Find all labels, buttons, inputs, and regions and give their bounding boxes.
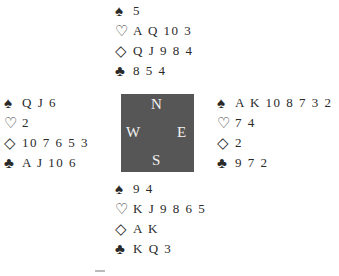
north-clubs-cards: 8 5 4	[133, 61, 167, 81]
east-diamonds-cards: 2	[235, 133, 243, 153]
south-spades-cards: 9 4	[133, 179, 154, 199]
compass-west-label: W	[126, 124, 140, 141]
club-icon: ♣	[4, 153, 22, 173]
spade-icon: ♠	[115, 179, 133, 199]
north-spades: ♠5	[115, 1, 193, 21]
north-diamonds: ◇Q J 9 8 4	[115, 41, 193, 61]
east-hearts-cards: 7 4	[235, 113, 256, 133]
spade-icon: ♠	[4, 93, 22, 113]
south-hearts-cards: K J 9 8 6 5	[133, 199, 206, 219]
south-hand: ♠9 4 ♡K J 9 8 6 5 ◇A K ♣K Q 3	[115, 179, 206, 259]
west-diamonds: ◇10 7 6 5 3	[4, 133, 89, 153]
west-hearts: ♡2	[4, 113, 89, 133]
compass-table: N W E S	[121, 94, 194, 172]
diamond-icon: ◇	[115, 41, 133, 61]
south-diamonds: ◇A K	[115, 219, 206, 239]
diamond-icon: ◇	[217, 133, 235, 153]
club-icon: ♣	[115, 61, 133, 81]
diamond-icon: ◇	[4, 133, 22, 153]
heart-icon: ♡	[115, 199, 133, 219]
heart-icon: ♡	[4, 113, 22, 133]
east-spades-cards: A K 10 8 7 3 2	[235, 93, 333, 113]
diamond-icon: ◇	[115, 219, 133, 239]
club-icon: ♣	[115, 239, 133, 259]
west-diamonds-cards: 10 7 6 5 3	[22, 133, 89, 153]
compass-east-label: E	[177, 124, 186, 141]
cropped-text-fragment	[95, 270, 105, 272]
south-hearts: ♡K J 9 8 6 5	[115, 199, 206, 219]
north-spades-cards: 5	[133, 1, 141, 21]
compass-north-label: N	[151, 96, 162, 113]
north-diamonds-cards: Q J 9 8 4	[133, 41, 193, 61]
west-clubs: ♣A J 10 6	[4, 153, 89, 173]
spade-icon: ♠	[115, 1, 133, 21]
west-hand: ♠Q J 6 ♡2 ◇10 7 6 5 3 ♣A J 10 6	[4, 93, 89, 173]
west-hearts-cards: 2	[22, 113, 30, 133]
north-hearts-cards: A Q 10 3	[133, 21, 192, 41]
east-diamonds: ◇2	[217, 133, 333, 153]
north-hand: ♠5 ♡A Q 10 3 ◇Q J 9 8 4 ♣8 5 4	[115, 1, 193, 81]
west-clubs-cards: A J 10 6	[22, 153, 77, 173]
east-hand: ♠A K 10 8 7 3 2 ♡7 4 ◇2 ♣9 7 2	[217, 93, 333, 173]
heart-icon: ♡	[217, 113, 235, 133]
east-hearts: ♡7 4	[217, 113, 333, 133]
east-clubs: ♣9 7 2	[217, 153, 333, 173]
club-icon: ♣	[217, 153, 235, 173]
east-clubs-cards: 9 7 2	[235, 153, 269, 173]
east-spades: ♠A K 10 8 7 3 2	[217, 93, 333, 113]
north-clubs: ♣8 5 4	[115, 61, 193, 81]
spade-icon: ♠	[217, 93, 235, 113]
compass-south-label: S	[152, 152, 160, 169]
south-spades: ♠9 4	[115, 179, 206, 199]
south-diamonds-cards: A K	[133, 219, 159, 239]
heart-icon: ♡	[115, 21, 133, 41]
west-spades-cards: Q J 6	[22, 93, 57, 113]
west-spades: ♠Q J 6	[4, 93, 89, 113]
south-clubs-cards: K Q 3	[133, 239, 172, 259]
south-clubs: ♣K Q 3	[115, 239, 206, 259]
north-hearts: ♡A Q 10 3	[115, 21, 193, 41]
